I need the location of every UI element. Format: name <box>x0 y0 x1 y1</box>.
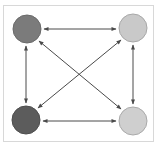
edge-top-left-bottom-right <box>39 41 121 109</box>
node-bottom-left <box>12 106 40 134</box>
node-bottom-right <box>119 107 147 135</box>
diagram-canvas <box>0 0 158 145</box>
node-top-right <box>119 14 147 42</box>
edges <box>26 29 133 121</box>
node-top-left <box>13 15 41 43</box>
